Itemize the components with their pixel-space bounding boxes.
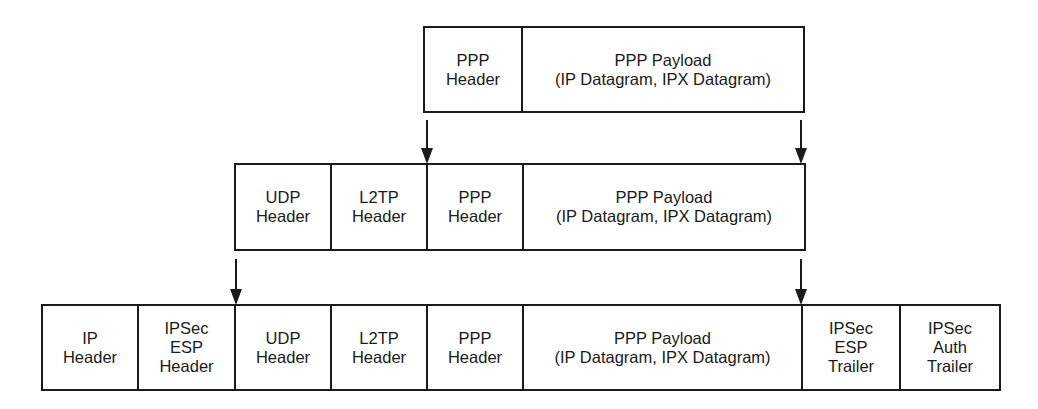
- arrow-down-icon: [421, 120, 433, 164]
- arrow-down-icon: [230, 259, 242, 305]
- arrow-down-icon: [795, 259, 807, 305]
- arrow-down-icon: [795, 120, 807, 164]
- arrows-layer: [0, 0, 1038, 409]
